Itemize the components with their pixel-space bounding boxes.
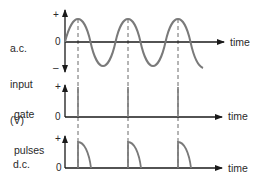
ac-sine-wave (65, 19, 203, 68)
thyristor-waveform-diagram (0, 0, 261, 179)
dc-output-pulses (78, 142, 191, 168)
gate-pulses-axes (65, 85, 222, 117)
gate-pulse-spikes (78, 87, 178, 117)
ac-input-axes (65, 10, 224, 72)
dc-output-axes (65, 136, 222, 168)
